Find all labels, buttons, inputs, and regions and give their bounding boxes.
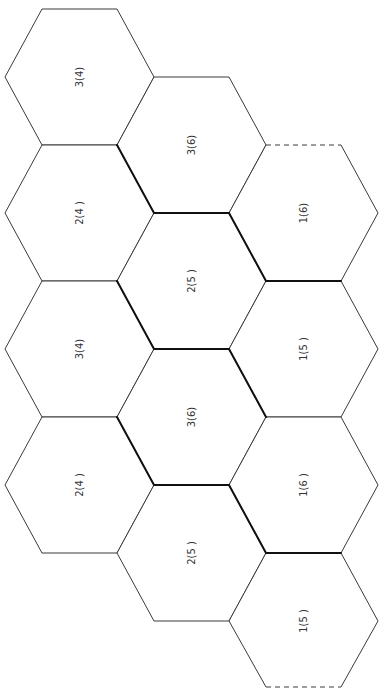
hex-label: 1(5 ) <box>298 337 309 361</box>
hex-label: 1(6 ) <box>298 473 309 497</box>
hex-label: 2(4 ) <box>74 473 85 497</box>
hex-label: 1(6) <box>298 203 309 224</box>
hex-label: 2(4 ) <box>74 201 85 225</box>
hex-label: 1(5 ) <box>298 609 309 633</box>
hex-label: 3(6) <box>186 407 197 428</box>
hex-label: 3(4) <box>74 67 85 88</box>
hex-label: 3(4) <box>74 339 85 360</box>
hex-label: 2(5 ) <box>186 269 197 293</box>
hex-grid-diagram: 3(4) 2(4 ) 3(4) 2(4 ) 3(6) 2(5 ) 3(6) 2(… <box>0 0 387 691</box>
hex-label: 2(5 ) <box>186 541 197 565</box>
hex-label: 3(6) <box>186 135 197 156</box>
